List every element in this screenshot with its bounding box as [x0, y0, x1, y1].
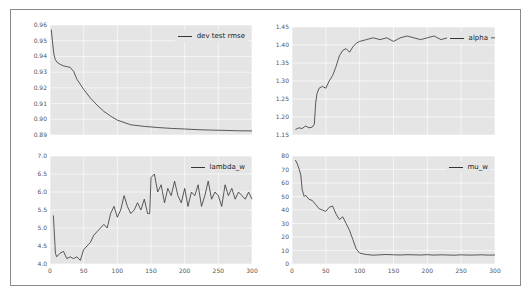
plot-dev-test-rmse: dev test rmse [50, 25, 252, 135]
y-tick-label: 10 [261, 248, 289, 254]
y-tick-label: 5.0 [19, 225, 47, 231]
series-line [295, 160, 495, 255]
plot-alpha: alpha [292, 27, 495, 135]
legend-label: alpha [469, 34, 488, 42]
y-tick-label: 4.0 [19, 261, 47, 267]
series-line [51, 30, 252, 131]
x-tick-label: 100 [107, 268, 127, 274]
legend: lambda_w [188, 161, 248, 173]
y-tick-label: 0.91 [19, 101, 47, 107]
y-tick-label: 40 [261, 207, 289, 213]
legend-swatch [178, 36, 192, 37]
legend: mu_w [446, 161, 491, 173]
plot-lambda-w: lambda_w [50, 156, 252, 264]
x-tick-label: 100 [350, 268, 370, 274]
y-tick-label: 6.0 [19, 189, 47, 195]
y-tick-label: 0 [261, 261, 289, 267]
y-tick-label: 1.15 [261, 132, 289, 138]
y-tick-label: 60 [261, 180, 289, 186]
x-tick-label: 150 [141, 268, 161, 274]
y-tick-label: 1.25 [261, 96, 289, 102]
x-tick-label: 150 [384, 268, 404, 274]
x-tick-label: 200 [175, 268, 195, 274]
x-tick-label: 250 [208, 268, 228, 274]
x-tick-label: 0 [282, 268, 302, 274]
series-line [53, 174, 252, 260]
y-tick-label: 30 [261, 221, 289, 227]
y-tick-label: 1.30 [261, 78, 289, 84]
y-tick-label: 0.95 [19, 38, 47, 44]
y-tick-label: 20 [261, 234, 289, 240]
y-tick-label: 0.96 [19, 22, 47, 28]
legend-label: dev test rmse [197, 32, 245, 40]
y-tick-label: 1.45 [261, 24, 289, 30]
plot-mu-w: mu_w [292, 156, 495, 264]
x-tick-label: 200 [417, 268, 437, 274]
legend-swatch [449, 167, 463, 168]
y-tick-label: 70 [261, 167, 289, 173]
y-tick-label: 6.5 [19, 171, 47, 177]
y-tick-label: 5.5 [19, 207, 47, 213]
y-tick-label: 1.20 [261, 114, 289, 120]
x-tick-label: 300 [242, 268, 262, 274]
y-tick-label: 0.90 [19, 116, 47, 122]
y-tick-label: 0.93 [19, 69, 47, 75]
y-tick-label: 0.94 [19, 53, 47, 59]
legend: alpha [447, 32, 491, 44]
x-tick-label: 0 [40, 268, 60, 274]
y-tick-label: 1.35 [261, 60, 289, 66]
legend: dev test rmse [175, 30, 248, 42]
legend-label: lambda_w [210, 163, 245, 171]
y-tick-label: 1.40 [261, 42, 289, 48]
y-tick-label: 4.5 [19, 243, 47, 249]
x-tick-label: 50 [74, 268, 94, 274]
series-line [295, 36, 495, 130]
legend-label: mu_w [468, 163, 488, 171]
x-tick-label: 50 [316, 268, 336, 274]
legend-swatch [191, 167, 205, 168]
y-tick-label: 0.89 [19, 132, 47, 138]
y-tick-label: 0.92 [19, 85, 47, 91]
y-tick-label: 80 [261, 153, 289, 159]
y-tick-label: 7.0 [19, 153, 47, 159]
legend-swatch [450, 38, 464, 39]
x-tick-label: 300 [485, 268, 505, 274]
y-tick-label: 50 [261, 194, 289, 200]
x-tick-label: 250 [451, 268, 471, 274]
